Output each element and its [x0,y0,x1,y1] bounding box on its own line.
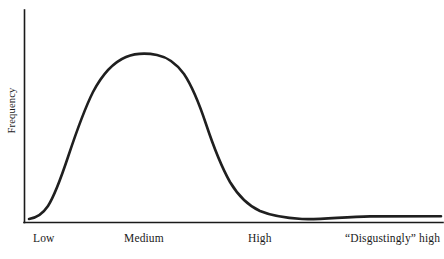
x-tick-label-low: Low [33,232,55,245]
x-tick-label-high: High [248,232,272,245]
distribution-curve [29,54,441,219]
y-axis-label: Frequency [6,76,17,146]
x-tick-label-medium: Medium [124,232,164,245]
frequency-distribution-chart: Frequency Low Medium High “Disgustingly”… [0,0,444,259]
x-tick-label-disgustingly-high: “Disgustingly” high [345,232,440,245]
chart-canvas [0,0,444,259]
